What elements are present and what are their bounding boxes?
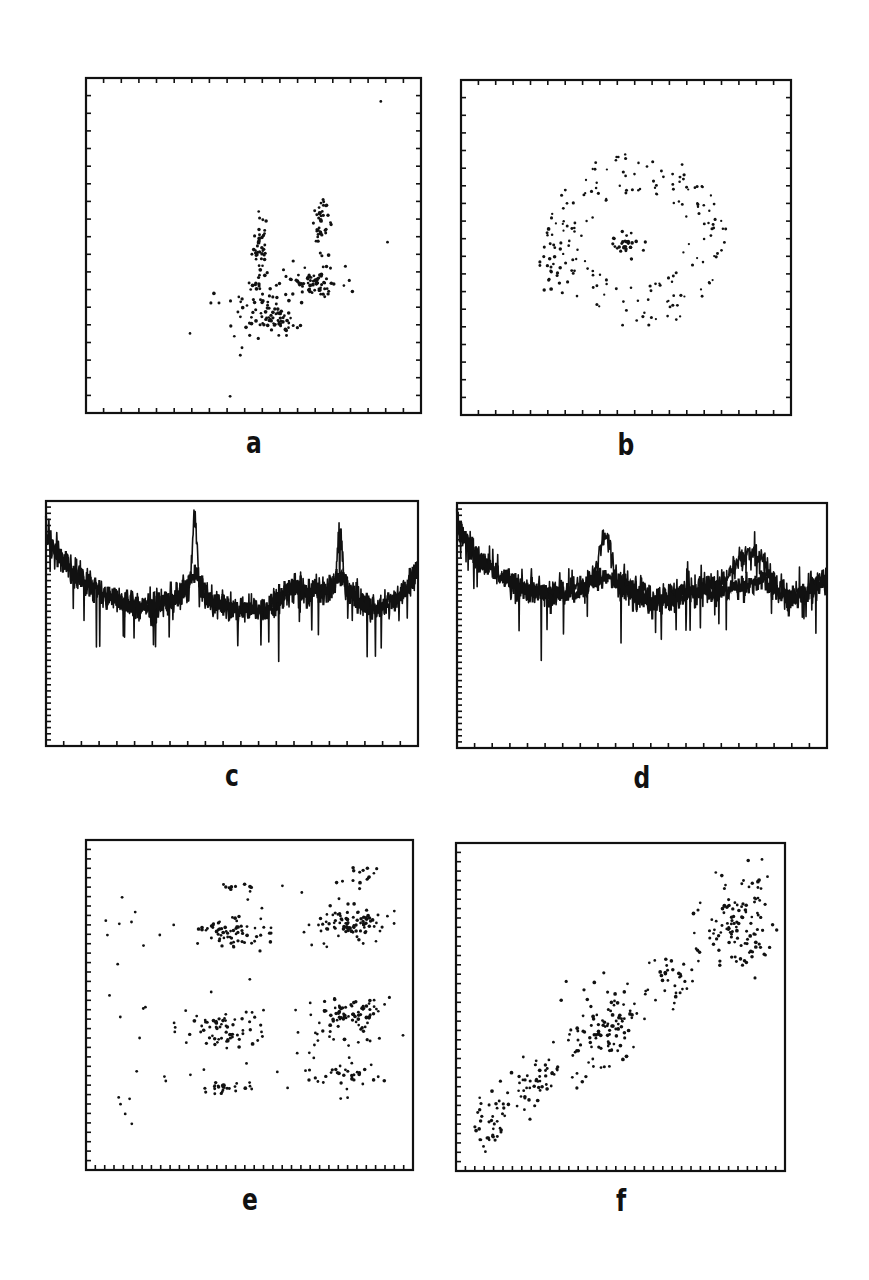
data-points	[538, 153, 727, 326]
plot-frame	[86, 840, 413, 1170]
panel-label-a: a	[238, 428, 269, 458]
plot-frame	[457, 503, 827, 748]
spectrum-trace	[46, 510, 418, 661]
panel-label-d: d	[626, 763, 657, 793]
panel-e	[86, 840, 413, 1170]
panel-label-f: f	[605, 1186, 636, 1216]
plot-frame	[46, 501, 418, 746]
plot-area-e	[86, 840, 413, 1170]
axis-ticks	[86, 78, 421, 413]
plot-area-a	[86, 78, 421, 413]
data-points	[189, 100, 389, 398]
panel-b	[461, 80, 791, 415]
panel-a	[86, 78, 421, 413]
plot-area-c	[46, 501, 418, 746]
plot-frame	[86, 78, 421, 413]
panel-label-b: b	[610, 430, 641, 460]
panel-label-c: c	[216, 761, 247, 791]
axis-ticks	[86, 849, 404, 1170]
plot-frame	[456, 843, 785, 1171]
spectrum-trace-band	[46, 516, 418, 621]
plot-area-d	[457, 503, 827, 748]
data-points	[104, 866, 404, 1125]
panel-c	[46, 501, 418, 746]
panel-d	[457, 503, 827, 748]
data-points	[473, 858, 778, 1153]
plot-area-b	[461, 80, 791, 415]
panel-label-e: e	[234, 1185, 265, 1215]
plot-area-f	[456, 843, 785, 1171]
panel-f	[456, 843, 785, 1171]
